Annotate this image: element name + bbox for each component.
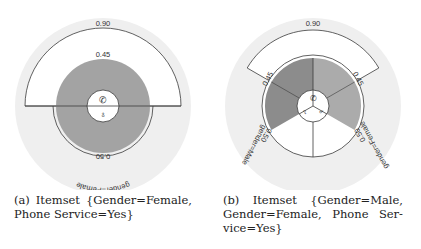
caption-word: Phone Service=Yes} [14,207,134,221]
caption-word: (b) [223,193,239,207]
caption-word: Ser- [379,207,403,221]
radial-itemset-diagram-b: ✆ ♂ ♀ PhoneService=Yes 0.90 0.45 0.45 0.… [210,0,420,190]
bottom-value: 0.50 [96,152,111,161]
panel-b-itemset-male-female-phone: ✆ ♂ ♀ PhoneService=Yes 0.90 0.45 0.45 0.… [210,0,420,190]
caption-line: Gender=Female, Phone Ser- [223,207,403,221]
phone-icon: ✆ [99,95,107,105]
caption-word: {Gender=Male, [310,193,403,207]
caption-word: Itemset [36,193,80,207]
caption-word: Gender=Female, [223,207,322,221]
caption-line: Phone Service=Yes} [14,207,192,221]
caption-word: Phone [332,207,368,221]
caption-line: (b) Itemset {Gender=Male, [223,193,403,207]
inner-top-value: 0.45 [96,50,111,59]
caption-line: vice=Yes} [223,221,403,235]
outer-value: 0.90 [306,19,321,28]
caption-a: (a) Itemset {Gender=Female, Phone Servic… [14,193,192,221]
caption-word: Itemset [253,193,297,207]
caption-word: (a) [14,193,30,207]
phone-icon: ✆ [310,94,317,103]
caption-word: {Gender=Female, [86,193,192,207]
caption-line: (a) Itemset {Gender=Female, [14,193,192,207]
radial-itemset-diagram-a: ✆ ♀ PhoneService=Yes 0.90 0.45 0.50 gend… [0,0,210,190]
caption-word: vice=Yes} [223,221,283,235]
panel-a-itemset-gender-female-phone: ✆ ♀ PhoneService=Yes 0.90 0.45 0.50 gend… [0,0,210,190]
caption-b: (b) Itemset {Gender=Male, Gender=Female,… [223,193,403,235]
outer-value: 0.90 [96,19,111,28]
female-icon: ♀ [100,110,107,120]
